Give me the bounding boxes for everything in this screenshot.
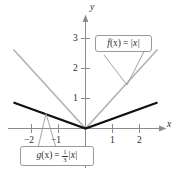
y-tick-label-1: 1 xyxy=(73,94,78,104)
x-tick-label-minus-2: −2 xyxy=(24,136,34,146)
y-axis-arrow xyxy=(83,15,89,23)
y-axis-label: y xyxy=(90,3,94,13)
g-func-arg: (x) xyxy=(41,151,52,161)
g-fraction-denominator: 3 xyxy=(62,156,67,164)
g-abs-term: |x| xyxy=(68,151,77,161)
y-tick-label-3: 3 xyxy=(73,34,78,44)
x-axis-arrow xyxy=(159,126,167,132)
g-fraction-numerator: 1 xyxy=(62,149,67,156)
g-function-callout: g(x)=13|x| xyxy=(20,146,94,166)
f-abs-term: |x| xyxy=(130,39,139,49)
y-tick-label-2: 2 xyxy=(73,64,78,74)
x-tick-label-minus-1: −1 xyxy=(51,136,61,146)
f-callout-leader xyxy=(104,51,145,86)
x-axis-label: x xyxy=(167,120,171,130)
g-function-expression: g(x)=13|x| xyxy=(37,149,78,164)
x-tick-label-1: 1 xyxy=(110,136,115,146)
y-axis xyxy=(81,15,90,169)
g-coefficient-fraction: 13 xyxy=(62,149,67,164)
absolute-value-graph-figure: y x 3 2 1 −2 −1 1 2 f(x)=|x| g(x)=13|x| xyxy=(0,0,177,183)
g-equals: = xyxy=(54,151,59,161)
f-function-expression: f(x)=|x| xyxy=(107,39,140,49)
f-equals: = xyxy=(123,39,128,49)
f-func-arg: (x) xyxy=(110,39,121,49)
x-tick-label-2: 2 xyxy=(137,136,142,146)
f-function-callout: f(x)=|x| xyxy=(95,35,152,52)
